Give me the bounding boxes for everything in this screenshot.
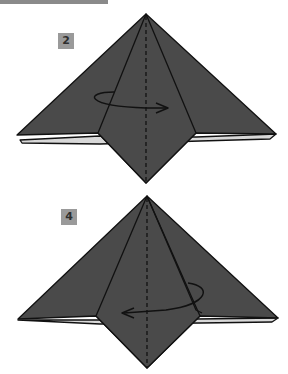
step-4-figure: [18, 196, 278, 368]
origami-diagram: [0, 0, 288, 374]
step-2-figure: [17, 14, 276, 183]
